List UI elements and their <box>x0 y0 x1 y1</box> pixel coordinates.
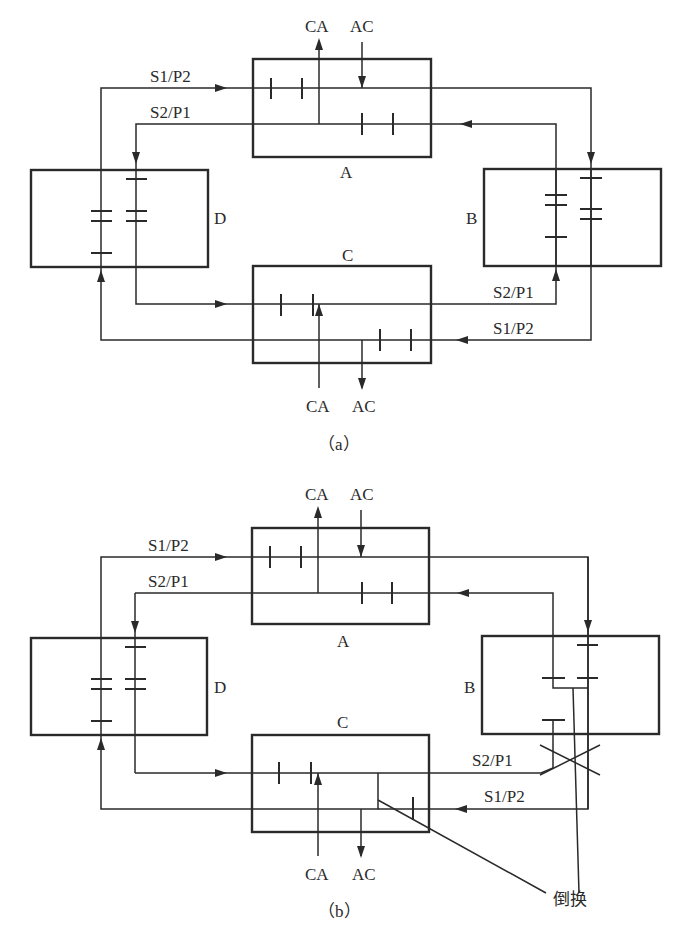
s2p1-ring-line <box>136 124 556 304</box>
arrow-left-icon <box>455 805 467 813</box>
line-label-s1p2: S1/P2 <box>493 319 534 338</box>
node-label-b: B <box>464 678 475 697</box>
s1p2-return-line <box>101 735 378 809</box>
node-b-box <box>482 636 659 734</box>
node-label-d: D <box>214 678 226 697</box>
arrow-up-icon <box>552 269 560 281</box>
arrow-up-icon <box>314 773 322 785</box>
arrow-down-icon <box>587 152 595 164</box>
port-label-ac: AC <box>350 17 374 36</box>
switch-leader-line <box>378 800 546 893</box>
node-label-b: B <box>466 209 477 228</box>
node-d-box <box>31 638 207 735</box>
arrow-up-icon <box>97 738 105 750</box>
node-label-c: C <box>337 713 348 732</box>
node-label-a: A <box>340 163 353 182</box>
node-label-c: C <box>342 246 353 265</box>
panel-a: CA AC S1/P2 S2/P1 A D B C S2/P1 S1/P2 CA… <box>31 17 661 454</box>
node-b-box <box>484 169 661 266</box>
node-d-box <box>31 170 208 267</box>
panel-caption-a: （a） <box>318 435 360 454</box>
node-a-box <box>252 528 429 624</box>
arrow-right-icon <box>215 553 227 561</box>
s1p2-ring-line <box>101 557 588 809</box>
arrow-right-icon <box>215 84 227 92</box>
arrow-up-icon <box>315 38 323 50</box>
switch-leader-line <box>573 688 579 893</box>
arrow-up-icon <box>97 270 105 282</box>
port-label-ac: AC <box>350 485 374 504</box>
switch-annotation-label: 倒换 <box>553 889 587 909</box>
line-label-s2p1: S2/P1 <box>493 283 534 302</box>
s1p2-ring-line <box>101 88 591 340</box>
line-label-s2p1: S2/P1 <box>150 103 191 122</box>
panel-caption-b: （b） <box>318 902 361 921</box>
arrow-left-icon <box>460 120 472 128</box>
port-label-ca: CA <box>305 865 329 884</box>
arrow-down-icon <box>358 76 366 88</box>
line-label-s2p1: S2/P1 <box>472 751 513 770</box>
node-c-box <box>253 266 431 363</box>
arrow-left-icon <box>456 336 468 344</box>
arrow-up-icon <box>314 506 322 518</box>
node-a-box <box>253 59 431 157</box>
port-label-ac: AC <box>352 865 376 884</box>
arrow-up-icon <box>315 304 323 316</box>
node-label-d: D <box>214 209 226 228</box>
arrow-down-icon <box>584 620 592 632</box>
s2p1-ring-line <box>135 593 588 688</box>
arrow-down-icon <box>357 545 365 557</box>
line-label-s1p2: S1/P2 <box>484 787 525 806</box>
arrow-down-icon <box>131 621 139 633</box>
arrow-down-icon <box>358 378 366 390</box>
line-label-s2p1: S2/P1 <box>148 572 189 591</box>
arrow-right-icon <box>215 300 227 308</box>
port-label-ca: CA <box>305 17 329 36</box>
port-label-ac: AC <box>352 397 376 416</box>
arrow-left-icon <box>457 589 469 597</box>
port-label-ca: CA <box>306 397 330 416</box>
port-label-ca: CA <box>305 485 329 504</box>
arrow-right-icon <box>215 769 227 777</box>
ring-protection-diagram: CA AC S1/P2 S2/P1 A D B C S2/P1 S1/P2 CA… <box>0 0 694 933</box>
node-label-a: A <box>337 632 350 651</box>
arrow-down-icon <box>132 152 140 164</box>
line-label-s1p2: S1/P2 <box>148 536 189 555</box>
arrow-down-icon <box>357 846 365 858</box>
panel-b: CA AC S1/P2 S2/P1 A D B C S2/P1 S1/P2 CA… <box>31 485 659 921</box>
line-label-s1p2: S1/P2 <box>150 67 191 86</box>
